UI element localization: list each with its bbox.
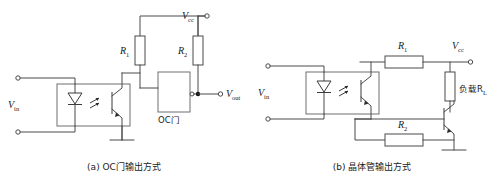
panel-a: R1 R2 OC门 Vout: [8, 10, 241, 172]
caption-a: (a) OC门输出方式: [87, 161, 161, 172]
led-a: [68, 84, 82, 126]
oc-gate-bubble-a: [190, 92, 194, 96]
vcc-node-b: Vcc: [452, 40, 473, 64]
oc-gate-body-a: [158, 72, 190, 112]
light-arrows-a: [90, 98, 99, 108]
resistor-r1-a: R1: [119, 36, 145, 88]
vout-label-a: Vout: [226, 88, 241, 101]
resistor-r2-label-b: R2: [397, 119, 407, 132]
load-resistor-b: 负载RL: [445, 62, 487, 112]
vin-wire-top-a: [20, 78, 75, 84]
led-triangle-b: [317, 81, 331, 92]
vin-wire-top-b: [270, 66, 324, 72]
npn-emitter-b: [444, 125, 454, 150]
resistor-r1-label-a: R1: [119, 45, 129, 58]
resistor-r2-label-a: R2: [177, 45, 187, 58]
vin-wire-bottom-a: [20, 126, 75, 132]
phototransistor-emitter-b: [361, 97, 371, 119]
optocoupler-b: [306, 62, 379, 119]
led-b: [317, 72, 331, 114]
vcc-label-a: Vcc: [182, 10, 194, 23]
vout-terminal-a[interactable]: [218, 92, 222, 96]
vin-terminal-top-b[interactable]: [266, 64, 270, 68]
vout-node-a: Vout: [196, 88, 241, 101]
vcc-terminal-b[interactable]: [468, 60, 472, 64]
ground-a: [110, 126, 134, 140]
resistor-r2-lead-left-b: [355, 119, 385, 140]
vin-terminal-top-a[interactable]: [16, 76, 20, 80]
vcc-node-a: [140, 14, 209, 36]
phototransistor-b: [361, 62, 371, 119]
oc-gate-a: OC门: [140, 72, 198, 125]
resistor-r2-body-b: [385, 134, 423, 146]
vin-terminal-bottom-b[interactable]: [266, 117, 270, 121]
circuit-figure: R1 R2 OC门 Vout: [0, 0, 498, 182]
optocoupler-a: [57, 73, 130, 140]
vin-wire-bottom-b: [270, 114, 324, 119]
vin-label-b: Vin: [258, 87, 270, 100]
load-resistor-label-b: 负载RL: [459, 84, 487, 96]
npn-collector-b: [444, 101, 454, 112]
led-triangle-a: [68, 93, 82, 104]
oc-gate-label-a: OC门: [158, 115, 180, 125]
vin-terminal-bottom-a[interactable]: [16, 130, 20, 134]
light-arrows-b: [339, 86, 348, 96]
vin-label-a: Vin: [8, 99, 20, 112]
resistor-r2-body-a: [193, 36, 203, 65]
caption-b: (b) 晶体管输出方式: [333, 161, 412, 172]
vcc-rail-left-a: [140, 16, 205, 36]
phototransistor-a: [112, 73, 122, 140]
resistor-r2-b: R2: [355, 119, 454, 146]
resistor-r1-body-a: [135, 36, 145, 65]
vin-node-a: Vin: [8, 76, 75, 134]
load-resistor-body-b: [445, 72, 455, 101]
phototransistor-collector-b: [361, 62, 371, 84]
vcc-terminal-a[interactable]: [205, 14, 209, 18]
resistor-r1-label-b: R1: [397, 40, 407, 53]
resistor-r1-body-b: [385, 56, 423, 68]
vcc-label-b: Vcc: [452, 40, 464, 53]
panel-b: R1 Vcc 负载RL: [258, 40, 487, 172]
